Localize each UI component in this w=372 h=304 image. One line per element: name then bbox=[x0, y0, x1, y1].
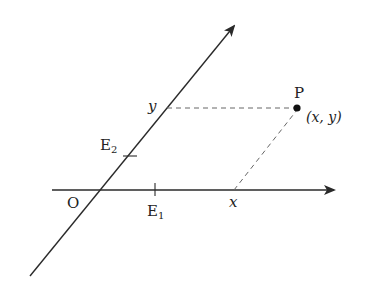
origin-label: O bbox=[67, 194, 79, 212]
y-axis bbox=[30, 26, 234, 276]
e2-subscript: 2 bbox=[111, 144, 117, 155]
point-coords-label: (x, y) bbox=[306, 109, 342, 125]
e1-subscript: 1 bbox=[158, 210, 164, 221]
x-value-label: x bbox=[229, 193, 238, 211]
point-p bbox=[293, 104, 300, 111]
e2-letter: E bbox=[100, 136, 111, 154]
oblique-coordinate-diagram: O E1 E2 x y P (x, y) bbox=[0, 0, 372, 304]
e2-label: E2 bbox=[100, 136, 117, 155]
dashed-line-x-to-p bbox=[234, 110, 297, 190]
point-name-label: P bbox=[294, 84, 304, 102]
e1-letter: E bbox=[147, 202, 158, 220]
e1-label: E1 bbox=[147, 202, 164, 221]
y-value-label: y bbox=[147, 97, 157, 115]
